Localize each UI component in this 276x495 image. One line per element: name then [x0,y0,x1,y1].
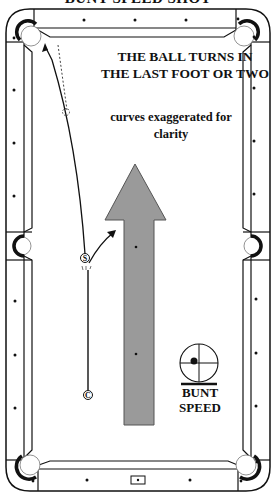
cue-ball: C [84,391,93,401]
head-spot-marker [131,476,145,484]
speed-label: BUNT SPEED [172,385,228,415]
pocket-bottom-left [16,455,40,482]
tip-contact-dot [191,358,198,365]
speed-label-line-1: BUNT [172,385,228,400]
diagram-title: BUNT SPEED SHOT [0,0,276,7]
headline-annotation: THE BALL TURNS IN THE LAST FOOT OR TWO [100,48,270,82]
object-ball-label: S [83,254,88,263]
note-line-1: curves exaggerated for [86,109,256,126]
foot-spot [135,246,138,249]
object-ball: S [81,254,90,264]
top-rail [34,9,236,37]
pocket-bottom-right [236,455,260,482]
contact-marks [82,266,91,270]
center-spot [135,353,138,356]
cue-ball-deflection-path [89,232,114,263]
note-line-2: clarity [86,126,256,143]
speed-label-line-2: SPEED [172,400,228,415]
direction-arrow [105,164,166,425]
clarity-note: curves exaggerated for clarity [86,109,256,143]
headline-line-2: THE LAST FOOT OR TWO [100,65,270,82]
object-ball-path [45,46,85,254]
cue-tip-position-indicator [180,344,218,384]
headline-line-1: THE BALL TURNS IN [100,48,270,65]
cue-ball-label: C [85,391,91,400]
pocket-side-right [244,236,262,256]
pocket-side-left [13,236,31,256]
